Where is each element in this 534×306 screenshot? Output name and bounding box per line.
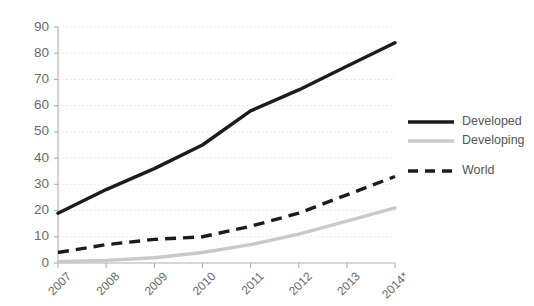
x-tick-label: 2008 bbox=[93, 269, 122, 298]
legend-label-developed: Developed bbox=[462, 114, 522, 128]
series-line-developing bbox=[58, 208, 395, 262]
series-line-developed bbox=[58, 43, 395, 213]
x-tick-label: 2014* bbox=[379, 269, 411, 301]
series-lines bbox=[58, 43, 395, 262]
y-tick-labels: 0102030405060708090 bbox=[34, 19, 49, 270]
line-chart: 0102030405060708090 20072008200920102011… bbox=[0, 0, 534, 306]
chart-legend: DevelopedDevelopingWorld bbox=[408, 114, 525, 177]
y-tick-label: 50 bbox=[34, 123, 49, 138]
x-tick-label: 2007 bbox=[45, 269, 74, 298]
x-tick-labels: 20072008200920102011201220132014* bbox=[45, 269, 411, 301]
y-tick-label: 10 bbox=[34, 228, 49, 243]
chart-canvas: 0102030405060708090 20072008200920102011… bbox=[0, 0, 534, 306]
y-tick-label: 40 bbox=[34, 150, 49, 165]
x-tick-label: 2009 bbox=[142, 269, 171, 298]
x-tick-label: 2011 bbox=[239, 269, 267, 297]
x-tick-label: 2013 bbox=[334, 269, 363, 298]
gridlines bbox=[58, 27, 395, 263]
legend-label-world: World bbox=[462, 163, 494, 177]
x-tick-label: 2012 bbox=[286, 269, 315, 298]
y-tick-label: 30 bbox=[34, 176, 49, 191]
y-tick-label: 80 bbox=[34, 45, 49, 60]
y-axis bbox=[54, 27, 58, 263]
y-tick-label: 0 bbox=[41, 255, 49, 270]
x-axis bbox=[58, 263, 395, 268]
y-tick-label: 70 bbox=[34, 71, 49, 86]
y-tick-label: 60 bbox=[34, 97, 49, 112]
legend-label-developing: Developing bbox=[462, 133, 525, 147]
y-tick-label: 20 bbox=[34, 202, 49, 217]
y-tick-label: 90 bbox=[34, 19, 49, 34]
x-tick-label: 2010 bbox=[190, 269, 219, 298]
